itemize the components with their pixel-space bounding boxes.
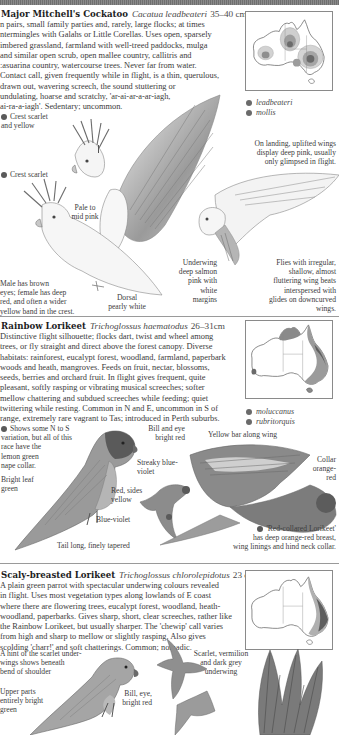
map-legend: leadbeateri mollis xyxy=(246,98,292,118)
annotation-bill-eye: Bill and eye bright red xyxy=(140,424,185,442)
annotation-underwing: Underwing deep salmon pink with white ma… xyxy=(170,258,217,304)
section-divider xyxy=(0,563,339,564)
latin-name: Trichoglossus haematodus xyxy=(90,321,188,331)
leader-line xyxy=(98,145,99,153)
annotation-bright-leaf-green: Bright leaf green xyxy=(1,475,34,493)
range-map xyxy=(245,570,333,650)
annotation-variation: Shows some N to S variation, but all of … xyxy=(1,424,72,470)
annotation-upper-parts: Upper parts entirely bright green xyxy=(0,687,43,715)
australia-map-icon xyxy=(246,571,332,649)
section-divider xyxy=(0,316,339,317)
annotation-tail: Tail long, finely tapered xyxy=(57,541,130,550)
species-description: Distinctive flight silhouette; flocks da… xyxy=(0,332,240,425)
annotation-yellow-bar: Yellow bar along wing xyxy=(208,430,277,439)
cockatoo-flying-illustration xyxy=(175,155,339,265)
legend-item-mollis: mollis xyxy=(246,108,292,118)
latin-name: Trichoglossus chlorolepidotus xyxy=(119,570,230,580)
species-entry-rainbow-lorikeet: Rainbow LorikeetTrichoglossus haematodus… xyxy=(0,320,339,555)
annotation-crest-scarlet: Crest scarlet xyxy=(1,170,48,179)
range-dot-icon xyxy=(246,110,252,116)
race-dot-icon xyxy=(1,172,7,178)
common-name: Scaly-breasted Lorikeet xyxy=(1,570,115,580)
australia-map-icon xyxy=(246,12,332,90)
range-dot-icon xyxy=(246,100,252,106)
legend-item-rubritorquis: rubritorquis xyxy=(246,417,295,427)
legend-item-leadbeateri: leadbeateri xyxy=(246,98,292,108)
annotation-hint-scarlet: A hint of the scarlet under- wings shows… xyxy=(0,649,81,677)
species-heading: Scaly-breasted LorikeetTrichoglossus chl… xyxy=(1,570,256,581)
common-name: Rainbow Lorikeet xyxy=(1,321,86,331)
annotation-male-female: Male has brown eyes; female has deep red… xyxy=(0,279,74,316)
annotation-flight: Flies with irregular, shallow, almost fl… xyxy=(240,258,336,313)
race-dot-icon xyxy=(257,526,263,532)
annotation-red-sides-yellow: Red, sides yellow xyxy=(111,486,142,504)
range-dot-icon xyxy=(246,409,252,415)
bird-illustration-icon xyxy=(250,645,330,735)
species-entry-major-mitchells-cockatoo: Major Mitchell's CockatooCacatua leadbea… xyxy=(0,5,339,310)
annotation-bill-eye: Bill, eye, bright red xyxy=(110,689,152,707)
annotation-dorsal: Dorsal pearly white xyxy=(102,293,152,311)
race-dot-icon xyxy=(1,114,7,120)
range-dot-icon xyxy=(246,419,252,425)
scaly-breasted-lorikeet-underwing-illustration xyxy=(250,645,330,735)
annotation-collar: Collar orange- red xyxy=(296,455,336,483)
australia-map-icon xyxy=(246,321,332,398)
annotation-pale-pink: Pale to mid pink xyxy=(62,203,108,221)
annotation-red-collared: 'Red-collared Lorikeet' has deep orange-… xyxy=(200,524,336,552)
bird-illustration-icon xyxy=(175,155,339,265)
species-entry-scaly-breasted-lorikeet: Scaly-breasted LorikeetTrichoglossus chl… xyxy=(0,565,339,735)
size: 26–31cm xyxy=(191,321,225,331)
annotation-underwing: Scarlet, vermilion and dark grey underwi… xyxy=(189,649,253,677)
range-map xyxy=(245,11,333,91)
legend-item-moluccanus: moluccanus xyxy=(246,407,295,417)
annotation-streaky-blue-violet: Streaky blue- violet xyxy=(137,458,178,476)
annotation-crest-scarlet-yellow: Crest scarlet and yellow xyxy=(1,112,48,130)
annotation-landing: On landing, uplifted wings display deep … xyxy=(220,139,336,167)
size: 35–40 cm xyxy=(210,9,247,19)
species-heading: Major Mitchell's CockatooCacatua leadbea… xyxy=(1,9,247,20)
map-legend: moluccanus rubritorquis xyxy=(246,407,295,427)
common-name: Major Mitchell's Cockatoo xyxy=(1,9,128,19)
latin-name: Cacatua leadbeateri xyxy=(132,9,207,19)
race-dot-icon xyxy=(1,426,7,432)
annotation-blue-violet: Blue-violet xyxy=(96,515,130,524)
species-heading: Rainbow LorikeetTrichoglossus haematodus… xyxy=(1,321,225,332)
range-map xyxy=(245,320,333,399)
